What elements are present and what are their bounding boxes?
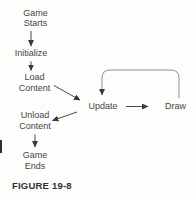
node-label-line: Content [19, 83, 51, 94]
node-label-line: Ends [23, 161, 48, 172]
node-draw: Draw [165, 101, 186, 112]
arrow-draw-loop-to-update [102, 70, 179, 98]
node-label-line: Game [23, 150, 48, 161]
node-update: Update [88, 101, 117, 112]
node-label-line: Update [88, 101, 117, 112]
node-label-line: Initialize [15, 48, 48, 59]
arrow-load-content-to-update [54, 86, 80, 101]
node-unload-content: Unload Content [19, 110, 51, 131]
arrow-update-to-unload-content [53, 112, 78, 121]
node-load-content: Load Content [19, 72, 51, 93]
node-label-line: Game [23, 8, 48, 19]
figure-caption: FIGURE 19-8 [12, 180, 72, 191]
node-label-line: Draw [165, 101, 186, 112]
figure-page: Game Starts Initialize Load Content Upda… [0, 0, 194, 197]
node-label-line: Starts [23, 18, 48, 29]
node-initialize: Initialize [15, 48, 48, 59]
node-game-starts: Game Starts [23, 8, 48, 29]
node-label-line: Unload [19, 110, 51, 121]
node-label-line: Load [19, 72, 51, 83]
node-label-line: Content [19, 121, 51, 132]
page-edge-artifact [0, 140, 2, 153]
node-game-ends: Game Ends [23, 150, 48, 171]
